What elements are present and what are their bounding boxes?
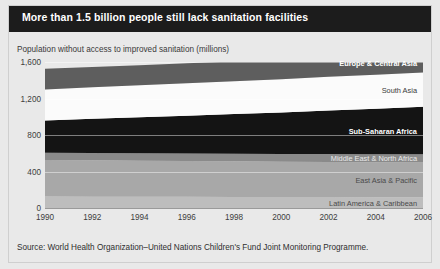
x-tick-label: 1996 — [178, 213, 196, 222]
gridline — [45, 135, 423, 136]
y-tick-label: 400 — [27, 167, 41, 176]
y-axis-ticks: 04008001,2001,600 — [8, 62, 41, 208]
page-title: More than 1.5 billion people still lack … — [22, 11, 308, 23]
y-tick-label: 1,600 — [21, 58, 42, 67]
y-tick-label: 0 — [36, 204, 41, 213]
x-tick-label: 1998 — [225, 213, 243, 222]
gridline — [45, 172, 423, 173]
x-tick-label: 1994 — [130, 213, 148, 222]
source-note: Source: World Health Organization–United… — [17, 243, 368, 252]
chart-page: More than 1.5 billion people still lack … — [0, 0, 440, 269]
series-label: Middle East & North Africa — [331, 154, 417, 163]
x-tick-label: 1990 — [36, 213, 54, 222]
series-label: East Asia & Pacific — [355, 175, 417, 184]
x-tick-label: 2002 — [319, 213, 337, 222]
gridline — [45, 99, 423, 100]
x-tick-label: 2006 — [414, 213, 432, 222]
x-tick-label: 2000 — [272, 213, 290, 222]
series-label: Sub-Saharan Africa — [349, 126, 417, 135]
y-tick-label: 1,200 — [21, 94, 42, 103]
series-label: South Asia — [382, 85, 417, 94]
x-tick-label: 1992 — [83, 213, 101, 222]
y-tick-label: 800 — [27, 131, 41, 140]
x-axis-ticks: 199019921994199619982000200220042006 — [45, 213, 423, 227]
chart-subtitle: Population without access to improved sa… — [17, 45, 229, 54]
x-axis-line — [45, 208, 423, 209]
x-tick-label: 2004 — [367, 213, 385, 222]
series-label: Europe & Central Asia — [339, 58, 417, 67]
series-label: Latin America & Caribbean — [329, 198, 417, 207]
plot-area: Latin America & CaribbeanEast Asia & Pac… — [45, 62, 423, 208]
